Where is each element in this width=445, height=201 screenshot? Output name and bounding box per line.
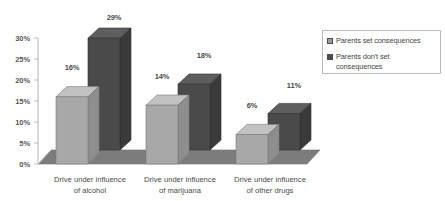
bar-side-face [88,87,99,164]
y-tick-label: 30% [4,34,30,43]
bar-side-face [210,74,221,150]
bar-group-1-series-0 [146,95,189,164]
category-label-1: Drive under influence of marijuana [131,175,229,196]
y-tick-label: 25% [4,55,30,64]
bar-front-face [146,105,178,164]
data-label-g2-s0: 6% [235,101,269,110]
legend-item-0[interactable]: Parents set consequences [327,36,436,46]
legend-swatch-icon [327,54,333,60]
legend-swatch-icon [327,38,333,44]
category-label-line1: Drive under influence [131,175,229,186]
category-label-line1: Drive under influence [221,175,319,186]
bar-front-face [236,135,268,164]
y-tick-label: 20% [4,76,30,85]
y-tick-label: 15% [4,97,30,106]
bar-group-0-series-0 [56,87,99,164]
bar-side-face [120,28,131,150]
chart-3d-grouped-bar: 30% 25% 20% 15% 10% 5% 0% 16% 29% 14% 18… [0,0,445,201]
legend-item-label: Parents don't set consequences [336,52,436,72]
category-label-line2: of other drugs [221,186,319,197]
category-label-line2: of marijuana [131,186,229,197]
category-label-0: Drive under influence of alcohol [41,175,139,196]
data-label-g1-s1: 18% [187,51,221,60]
data-label-g0-s0: 16% [55,63,89,72]
data-label-g2-s1: 11% [277,81,311,90]
bar-side-face [178,95,189,164]
y-tick-label: 5% [4,139,30,148]
legend-item-label: Parents set consequences [336,36,436,46]
legend-item-1[interactable]: Parents don't set consequences [327,52,436,72]
category-label-line2: of alcohol [41,186,139,197]
bar-front-face [56,97,88,164]
chart-legend: Parents set consequences Parents don't s… [322,30,441,74]
category-label-2: Drive under influence of other drugs [221,175,319,196]
y-tick-label: 0% [4,160,30,169]
category-label-line1: Drive under influence [41,175,139,186]
y-tick-label: 10% [4,118,30,127]
data-label-g1-s0: 14% [145,72,179,81]
bar-group-2-series-0 [236,124,279,164]
data-label-g0-s1: 29% [97,13,131,22]
